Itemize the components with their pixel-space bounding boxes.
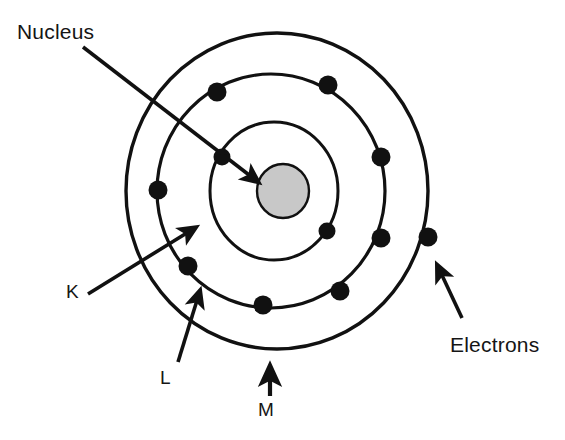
electron-dot: [419, 228, 438, 247]
atom-diagram: [0, 0, 565, 440]
nucleus-circle: [257, 164, 309, 218]
electron-dot: [372, 148, 391, 167]
canvas-background: [0, 0, 565, 440]
electron-dot: [179, 257, 198, 276]
electrons-label: Electrons: [450, 333, 539, 357]
electron-dot: [319, 223, 336, 240]
electron-dot: [331, 282, 350, 301]
electron-dot: [372, 229, 391, 248]
electron-dot: [149, 181, 168, 200]
shell-l-label: L: [160, 367, 171, 389]
electron-dot: [319, 76, 338, 95]
shell-k-label: K: [66, 281, 79, 303]
electron-dot: [254, 296, 273, 315]
electron-dot: [208, 83, 227, 102]
shell-m-label: M: [258, 399, 274, 421]
nucleus-label: Nucleus: [17, 20, 94, 44]
